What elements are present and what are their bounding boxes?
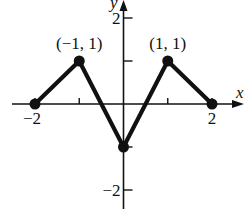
data-point-marker: [74, 56, 85, 67]
data-point-marker: [207, 99, 218, 110]
x-tick-label: 2: [208, 109, 217, 128]
data-point-marker: [30, 99, 41, 110]
point-annotation: (1, 1): [149, 34, 186, 53]
data-point-marker: [118, 142, 129, 153]
axes: [12, 4, 236, 209]
x-tick-label: −2: [23, 109, 41, 128]
y-axis-arrow-icon: [120, 0, 128, 11]
data-point-marker: [162, 56, 173, 67]
point-annotation: (−1, 1): [56, 34, 102, 53]
x-axis-label: x: [235, 83, 244, 102]
y-axis-label: y: [108, 0, 118, 12]
point-annotations: (−1, 1)(1, 1): [56, 34, 186, 53]
y-tick-label: −2: [102, 181, 120, 200]
function-graph: −222−2 x y (−1, 1)(1, 1): [0, 0, 249, 217]
